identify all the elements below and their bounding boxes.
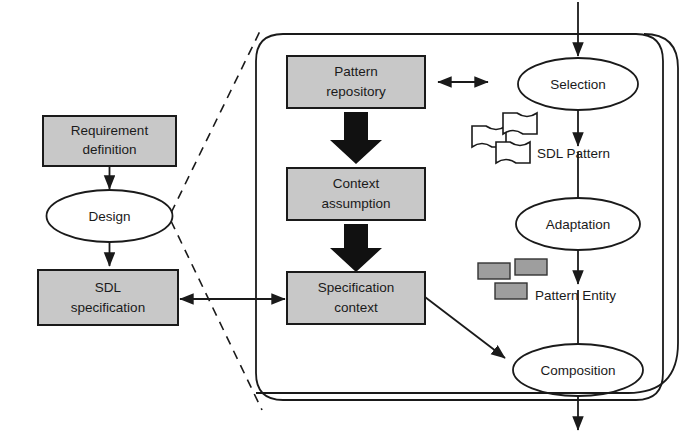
node-composition[interactable]: Composition <box>513 344 643 396</box>
diagram-canvas: Requirement definition Design SDL specif… <box>0 0 692 433</box>
node-adaptation[interactable]: Adaptation <box>516 198 640 250</box>
node-pattern-repository[interactable]: Pattern repository <box>287 56 425 108</box>
requirement-definition-line2: definition <box>82 142 136 157</box>
fat-arrow-assumption-to-spec-context <box>330 224 382 272</box>
context-assumption-line1: Context <box>333 176 380 191</box>
composition-label: Composition <box>540 363 615 378</box>
sdl-pattern-legend-label: SDL Pattern <box>537 146 610 161</box>
entity-rect-2 <box>515 259 547 275</box>
arrow-spec-context-to-composition <box>425 297 505 358</box>
entity-rect-1 <box>478 263 510 279</box>
flag-icon-3 <box>496 142 530 163</box>
pattern-repository-line2: repository <box>326 84 386 99</box>
node-context-assumption[interactable]: Context assumption <box>287 168 425 220</box>
node-requirement-definition[interactable]: Requirement definition <box>43 116 176 166</box>
specification-context-line1: Specification <box>318 280 395 295</box>
entity-rect-3 <box>495 283 527 299</box>
context-assumption-line2: assumption <box>321 196 390 211</box>
requirement-definition-line1: Requirement <box>71 123 149 138</box>
flag-icon-2 <box>503 113 537 134</box>
zoom-guide-upper-line <box>171 27 262 213</box>
zoom-guide-lower-line <box>171 221 262 410</box>
pattern-repository-line1: Pattern <box>334 64 378 79</box>
adaptation-label: Adaptation <box>546 217 611 232</box>
specification-context-line2: context <box>334 300 378 315</box>
sdl-pattern-legend: SDL Pattern <box>472 113 610 163</box>
fat-arrow-repository-to-assumption <box>330 112 382 164</box>
sdl-specification-line1: SDL <box>95 280 122 295</box>
pattern-entity-legend-label: Pattern Entity <box>535 288 616 303</box>
node-specification-context[interactable]: Specification context <box>287 272 425 324</box>
selection-label: Selection <box>550 77 606 92</box>
design-label: Design <box>88 209 130 224</box>
pattern-entity-legend: Pattern Entity <box>478 259 616 303</box>
node-design[interactable]: Design <box>47 190 173 242</box>
node-sdl-specification[interactable]: SDL specification <box>38 270 178 325</box>
node-selection[interactable]: Selection <box>518 58 638 110</box>
sdl-specification-line2: specification <box>71 300 145 315</box>
process-diagram: Requirement definition Design SDL specif… <box>0 0 692 433</box>
